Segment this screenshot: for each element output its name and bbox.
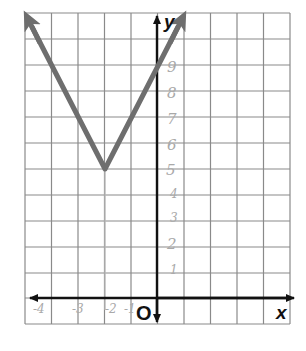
y-tick-label: 1 [170, 263, 178, 277]
y-tick-label: 5 [166, 161, 176, 179]
y-axis-label: y [163, 11, 176, 32]
y-tick-label: 7 [167, 110, 177, 128]
coordinate-plane: y x O 9 8 7 6 5 4 3 2 1 -4 -3 -2 -1 [0, 0, 306, 351]
handwritten-x-labels: -4 -3 -2 -1 [33, 302, 136, 316]
y-tick-label: 2 [166, 235, 177, 253]
x-tick-label: -4 [33, 302, 45, 316]
left-arrow-icon [30, 23, 40, 43]
y-tick-label: 4 [169, 187, 178, 201]
x-axis-label: x [275, 302, 288, 323]
y-tick-label: 3 [170, 211, 178, 225]
x-tick-label: -3 [72, 302, 84, 316]
y-tick-label: 9 [167, 58, 177, 76]
y-tick-label: 6 [167, 136, 177, 154]
x-tick-label: -1 [124, 302, 136, 316]
y-tick-label: 8 [167, 84, 177, 102]
handwritten-y-labels: 9 8 7 6 5 4 3 2 1 [166, 58, 178, 277]
x-tick-label: -2 [105, 302, 117, 316]
origin-label: O [136, 302, 152, 324]
